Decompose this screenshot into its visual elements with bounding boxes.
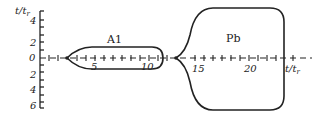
x-tick-label: 10 [141,61,154,72]
phase-diagram: t/tr 4 2 0 2 4 6 5 10 15 20 t/tr [0,0,319,119]
y-tick-label: 4 [29,15,36,26]
a1-cusp-point [65,56,69,60]
y-tick-label: 0 [29,52,36,63]
y-axis [40,11,44,108]
y-tick-label: 2 [29,37,36,48]
y-tick-label: 4 [29,84,36,95]
y-axis-label: t/tr [15,5,30,18]
y-tick-label: 6 [30,100,37,111]
x-tick-label: 15 [192,63,205,74]
region-a1-label: A1 [106,33,122,46]
region-pb-outline [176,8,284,110]
y-tick-label: 2 [29,69,36,80]
pb-cusp-point [174,56,178,60]
x-tick-label: 5 [91,61,97,72]
x-axis-label: t/tr [285,63,300,76]
region-pb-label: Pb [226,32,240,45]
x-tick-label: 20 [243,63,257,74]
